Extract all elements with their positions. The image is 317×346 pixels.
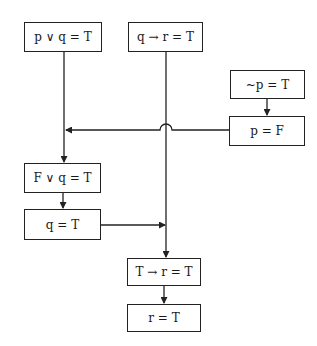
node-not-p: ~p = T xyxy=(230,70,305,99)
node-label: T → r = T xyxy=(135,265,192,279)
node-label: p ∨ q = T xyxy=(34,30,91,44)
node-t-implies-r: T → r = T xyxy=(127,258,201,286)
node-q-implies-r: q → r = T xyxy=(128,22,203,52)
node-label: ~p = T xyxy=(246,78,289,92)
node-label: r = T xyxy=(148,311,179,325)
node-p-false: p = F xyxy=(229,116,305,146)
node-f-or-q: F ∨ q = T xyxy=(24,163,101,193)
node-r-true: r = T xyxy=(127,304,201,332)
node-p-or-q: p ∨ q = T xyxy=(24,22,102,52)
node-q-true: q = T xyxy=(24,209,101,240)
node-label: F ∨ q = T xyxy=(33,171,91,185)
node-label: p = F xyxy=(250,124,284,138)
node-label: q → r = T xyxy=(137,30,194,44)
edge-pf-to-left xyxy=(66,124,229,130)
node-label: q = T xyxy=(46,218,79,232)
